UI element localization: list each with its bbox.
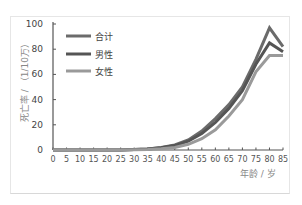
x-tick-label: 85 bbox=[278, 155, 288, 164]
line-chart: 0204060801000510152025303540455055606570… bbox=[0, 0, 302, 205]
x-tick-label: 10 bbox=[75, 155, 85, 164]
x-tick-label: 80 bbox=[264, 155, 274, 164]
x-tick-label: 40 bbox=[156, 155, 166, 164]
x-tick-label: 65 bbox=[224, 155, 234, 164]
x-tick-label: 55 bbox=[197, 155, 207, 164]
x-tick-label: 25 bbox=[116, 155, 126, 164]
legend-label: 男性 bbox=[95, 49, 113, 60]
y-tick-label: 60 bbox=[32, 69, 44, 79]
x-tick-label: 30 bbox=[129, 155, 139, 164]
x-tick-label: 0 bbox=[50, 155, 55, 164]
x-tick-label: 20 bbox=[102, 155, 112, 164]
x-tick-label: 15 bbox=[88, 155, 98, 164]
x-tick-label: 50 bbox=[183, 155, 193, 164]
y-tick-label: 20 bbox=[32, 120, 44, 130]
y-tick-label: 80 bbox=[32, 44, 44, 54]
x-tick-label: 5 bbox=[64, 155, 69, 164]
legend-label: 合计 bbox=[95, 31, 113, 42]
series-line-2 bbox=[53, 43, 283, 150]
x-tick-label: 60 bbox=[210, 155, 220, 164]
y-axis-label: 死亡率 / （1/10万） bbox=[19, 39, 30, 122]
x-tick-label: 45 bbox=[170, 155, 180, 164]
x-axis-label: 年龄 / 岁 bbox=[240, 168, 276, 179]
y-tick-label: 0 bbox=[37, 145, 43, 155]
legend-label: 女性 bbox=[95, 66, 113, 77]
x-tick-label: 70 bbox=[237, 155, 247, 164]
y-tick-label: 40 bbox=[32, 95, 44, 105]
y-tick-label: 100 bbox=[26, 19, 43, 29]
x-tick-label: 35 bbox=[143, 155, 153, 164]
x-tick-label: 75 bbox=[251, 155, 261, 164]
